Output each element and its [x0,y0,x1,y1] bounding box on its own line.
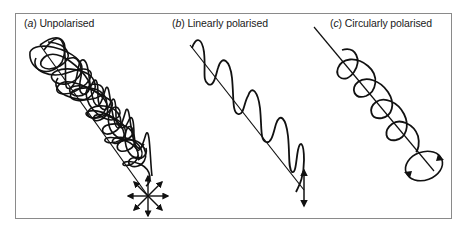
circular-rotation-icon [401,146,446,185]
circular-helix [314,27,434,171]
linear-wave [190,40,304,192]
unpolarised-wave-bundle [30,38,152,196]
unpolarised-directions-icon [128,176,168,216]
polarisation-diagram [0,0,469,230]
